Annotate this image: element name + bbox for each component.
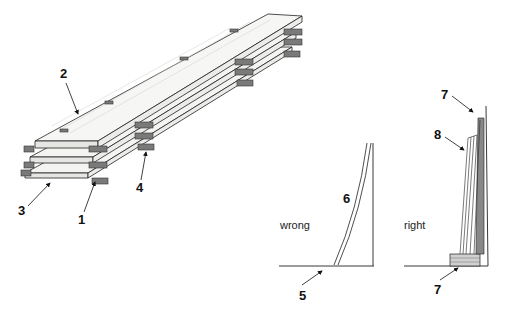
svg-text:4: 4 [136,180,144,195]
sticker [135,133,153,139]
callout-3: 3 [18,183,50,218]
svg-text:1: 1 [78,212,85,227]
svg-text:7: 7 [434,282,441,297]
sticker [24,162,34,168]
sticker [284,39,302,45]
sticker [230,29,238,32]
callout-4: 4 [136,152,146,195]
svg-text:7: 7 [441,87,448,102]
sticker [60,129,68,132]
lumber-stacking-diagram: 2 3 1 4 wrong 6 5 [0,0,514,319]
callout-1: 1 [78,182,95,227]
right-storage-diagram: right 7 8 7 [404,87,488,297]
sticker [284,29,302,35]
sticker [237,80,253,86]
right-caption: right [404,219,425,231]
base-block [450,254,480,266]
sticker [105,101,113,104]
sticker [235,59,253,65]
callout-5: 5 [299,271,322,303]
svg-text:6: 6 [343,191,350,206]
svg-text:8: 8 [434,127,441,142]
sticker [180,57,188,60]
sticker [284,51,300,57]
wrong-storage-diagram: wrong 6 5 [279,143,374,303]
sticker [21,170,31,176]
sticker [138,144,154,150]
callout-8: 8 [434,127,464,150]
sticker [235,69,253,75]
sticker [24,146,34,152]
svg-text:5: 5 [299,288,306,303]
callout-6: 6 [343,191,350,206]
wrong-caption: wrong [279,219,310,231]
sticker [135,122,153,128]
callout-7-top: 7 [441,87,473,112]
lumber-stack: 2 3 1 4 [18,14,302,227]
callout-2: 2 [60,66,78,114]
sticker [89,146,107,152]
callout-7-bottom: 7 [434,268,458,297]
svg-text:3: 3 [18,203,25,218]
sticker [89,162,107,168]
svg-text:2: 2 [60,66,67,81]
